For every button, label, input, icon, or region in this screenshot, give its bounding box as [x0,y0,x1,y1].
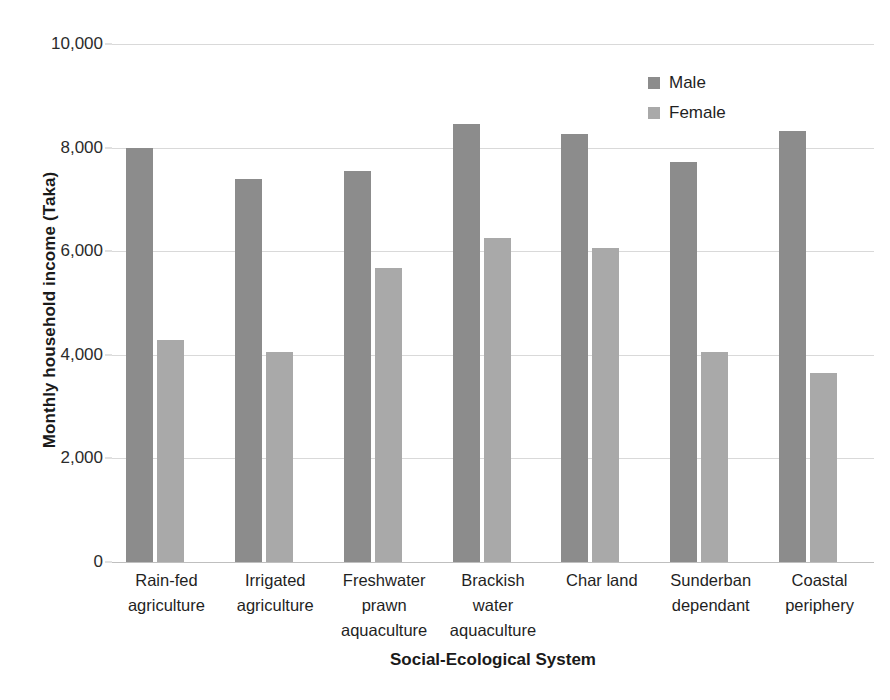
bar-group [547,44,656,562]
bar-male [453,124,480,562]
y-axis-tick-label: 6,000 [60,241,103,261]
bar-female [701,352,728,562]
bar-female [157,340,184,562]
x-axis-category-label: Sunderbandependant [656,568,765,618]
bar-male [779,131,806,562]
bar-female [266,352,293,562]
x-axis-category-label-line: Sunderban [656,568,765,593]
bar-female [810,373,837,562]
plot-area: 02,0004,0006,0008,00010,000 [112,44,874,562]
x-axis-category-label-line: agriculture [112,593,221,618]
y-axis-tick-label: 2,000 [60,448,103,468]
bar-group [439,44,548,562]
y-axis-tick-label: 8,000 [60,138,103,158]
x-axis-title: Social-Ecological System [112,650,874,670]
x-axis-category-label: Rain-fedagriculture [112,568,221,618]
x-axis-category-label-line: aquaculture [439,618,548,643]
x-axis-category-label-line: aquaculture [330,618,439,643]
legend-swatch-icon [648,107,660,119]
y-axis-tick-mark [105,354,112,355]
bar-male [670,162,697,562]
legend-label: Male [669,73,706,93]
y-axis-title: Monthly household income (Taka) [40,100,60,520]
x-axis-category-label-line: Coastal [765,568,874,593]
x-axis-category-label-line: Irrigated [221,568,330,593]
legend-label: Female [669,103,726,123]
legend-item: Male [648,68,726,98]
bar-group [221,44,330,562]
bar-group [765,44,874,562]
x-axis-category-label-line: Char land [547,568,656,593]
legend-item: Female [648,98,726,128]
bar-male [235,179,262,562]
y-axis-tick-mark [105,44,112,45]
gridline [112,562,874,563]
x-axis-category-label-line: agriculture [221,593,330,618]
y-axis-tick-mark [105,458,112,459]
x-axis-category-label: Freshwaterprawnaquaculture [330,568,439,643]
bar-female [375,268,402,562]
x-axis-category-label: Irrigatedagriculture [221,568,330,618]
x-axis-category-labels: Rain-fedagricultureIrrigatedagricultureF… [112,568,874,650]
y-axis-tick-label: 0 [94,552,103,572]
x-axis-category-label-line: periphery [765,593,874,618]
legend: MaleFemale [648,68,726,128]
x-axis-category-label-line: water [439,593,548,618]
x-axis-category-label-line: Rain-fed [112,568,221,593]
bar-group [112,44,221,562]
bar-male [344,171,371,562]
x-axis-category-label-line: Freshwater [330,568,439,593]
bar-group [330,44,439,562]
y-axis-tick-label: 10,000 [51,34,103,54]
bar-female [484,238,511,562]
x-axis-category-label: Coastalperiphery [765,568,874,618]
legend-swatch-icon [648,77,660,89]
bar-male [561,134,588,562]
bars-layer [112,44,874,562]
bar-male [126,148,153,562]
y-axis-tick-mark [105,251,112,252]
bar-chart: Monthly household income (Taka) 02,0004,… [0,0,890,700]
x-axis-category-label-line: dependant [656,593,765,618]
x-axis-category-label-line: Brackish [439,568,548,593]
bar-female [592,248,619,562]
y-axis-tick-label: 4,000 [60,345,103,365]
y-axis-tick-mark [105,562,112,563]
x-axis-category-label: Brackishwateraquaculture [439,568,548,643]
x-axis-category-label-line: prawn [330,593,439,618]
y-axis-tick-mark [105,147,112,148]
x-axis-category-label: Char land [547,568,656,593]
